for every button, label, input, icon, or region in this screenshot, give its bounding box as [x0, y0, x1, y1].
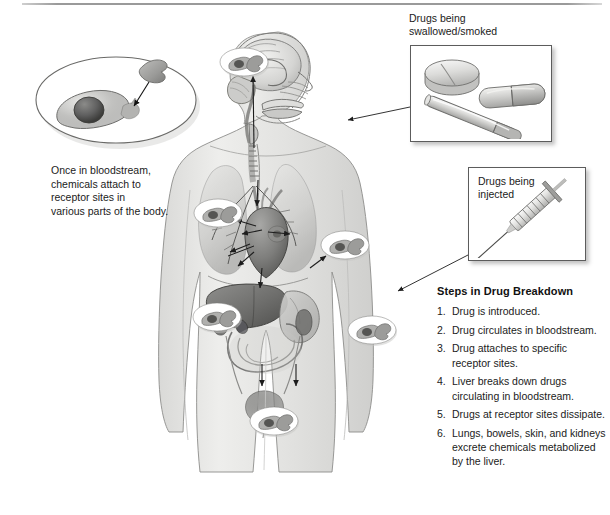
steps-panel: Steps in Drug Breakdown Drug is introduc…: [437, 285, 607, 473]
receptor-marker-liver: [192, 300, 246, 334]
receptor-marker-heart: [320, 228, 374, 262]
swallowed-smoked-label: Drugs being swallowed/smoked: [409, 12, 559, 38]
steps-title: Steps in Drug Breakdown: [437, 285, 607, 297]
receptor-marker-lung: [193, 196, 247, 230]
figure-canvas: Once in bloodstream, chemicals attach to…: [0, 0, 610, 515]
step-item: Drug circulates in bloodstream.: [437, 323, 607, 337]
step-item: Drugs at receptor sites dissipate.: [437, 407, 607, 421]
receptor-cell-detail-inset: [31, 44, 203, 156]
receptor-marker-intestine: [347, 313, 401, 347]
receptor-marker-bladder: [249, 404, 303, 438]
swallowed-smoked-panel: [410, 45, 552, 142]
steps-list: Drug is introduced. Drug circulates in b…: [437, 304, 607, 469]
receptor-marker-brain: [219, 45, 273, 79]
step-item: Lungs, bowels, skin, and kidneys excrete…: [437, 426, 607, 469]
step-item: Drug attaches to specific receptor sites…: [437, 341, 607, 369]
top-divider-rule: [22, 3, 602, 5]
step-item: Drug is introduced.: [437, 304, 607, 318]
step-item: Liver breaks down drugs circulating in b…: [437, 374, 607, 402]
cell-inset-caption: Once in bloodstream, chemicals attach to…: [51, 164, 201, 218]
injected-label: Drugs being injected: [478, 175, 568, 201]
